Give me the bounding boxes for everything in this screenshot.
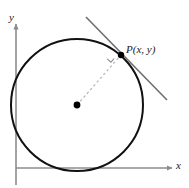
radius-dashed-line — [77, 55, 121, 105]
geometry-figure: y x P(x, y) — [0, 0, 189, 188]
tangent-line — [86, 17, 167, 100]
figure-canvas — [0, 0, 189, 188]
y-axis-label: y — [9, 12, 14, 23]
right-angle-mark — [107, 59, 114, 63]
tangent-point-label: P(x, y) — [126, 44, 155, 55]
center-point-dot — [74, 102, 81, 109]
tangent-point-dot — [118, 52, 124, 58]
x-axis-label: x — [176, 160, 181, 171]
